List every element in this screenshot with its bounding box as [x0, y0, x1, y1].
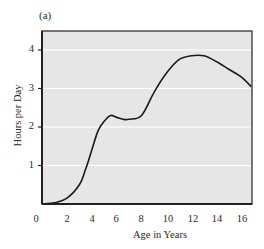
x-tick-label: 8 — [131, 213, 151, 224]
y-tick-label: 3 — [22, 82, 34, 93]
x-tick-label: 4 — [82, 213, 102, 224]
y-tick-label: 1 — [22, 159, 34, 170]
x-tick-label: 10 — [158, 213, 178, 224]
y-tick-label: 2 — [22, 120, 34, 131]
x-tick-label: 14 — [207, 213, 227, 224]
x-tick-label: 12 — [183, 213, 203, 224]
x-tick-label: 2 — [57, 213, 77, 224]
x-tick-label: 16 — [232, 213, 252, 224]
plot-area — [42, 31, 252, 204]
y-axis-label: Hours per Day — [12, 76, 23, 156]
x-tick-label: 0 — [26, 213, 46, 224]
y-tick-label: 4 — [22, 43, 34, 54]
x-axis-label: Age in Years — [100, 229, 220, 240]
x-tick-label: 6 — [106, 213, 126, 224]
chart-plot — [0, 0, 264, 249]
